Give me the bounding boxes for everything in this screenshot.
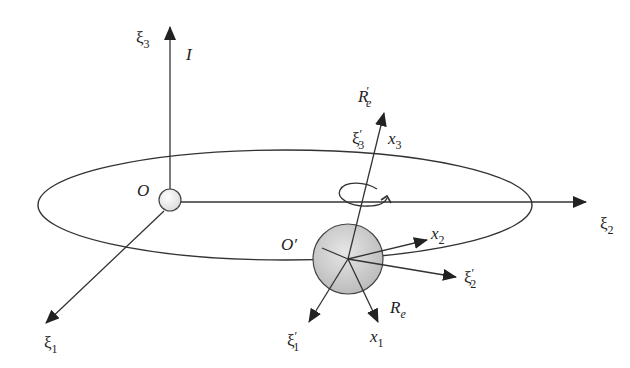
label-Re: Re: [389, 298, 406, 321]
label-x3: x3: [387, 129, 402, 152]
label-xi3-prime: ξ′3: [352, 127, 364, 152]
orbit-frames-diagram: ξ3 I O ξ2 ξ1 R′e ξ′3 x3 O′ x2 ξ′2 Re x1 …: [0, 0, 630, 368]
label-xi1-prime: ξ′1: [287, 329, 299, 354]
label-O: O: [137, 181, 149, 200]
label-x2: x2: [430, 224, 445, 247]
label-xi2: ξ2: [600, 214, 614, 237]
label-x1: x1: [369, 327, 384, 350]
label-xi2-prime: ξ′2: [464, 266, 476, 291]
label-O-prime: O′: [281, 235, 297, 254]
origin-sphere: [159, 189, 181, 211]
label-xi3: ξ3: [136, 28, 150, 51]
label-Re-prime: R′e: [357, 84, 372, 110]
label-I: I: [185, 45, 193, 64]
label-xi1: ξ1: [44, 333, 58, 356]
xi1-axis: [46, 211, 164, 323]
